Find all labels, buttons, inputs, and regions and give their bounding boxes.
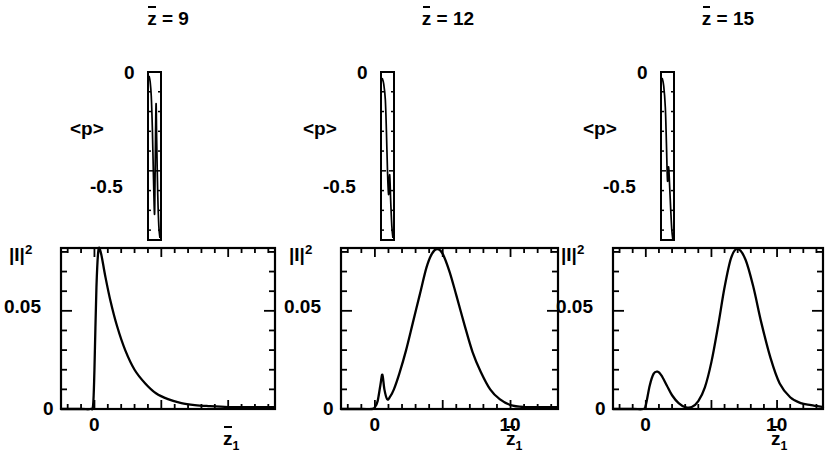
lower-curve-3 xyxy=(613,249,823,409)
lower-curve-2 xyxy=(341,249,558,409)
upper-curve-2 xyxy=(382,78,393,238)
upper-curve-3 xyxy=(662,78,673,240)
lower-curve-1 xyxy=(61,248,275,410)
upper-curve-1 xyxy=(149,76,160,238)
plot-overlay xyxy=(0,0,839,465)
